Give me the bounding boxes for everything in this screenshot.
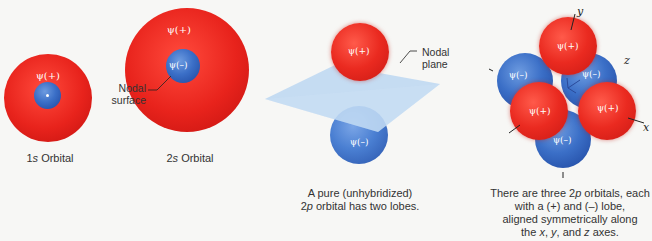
- leader-lines: [0, 0, 652, 241]
